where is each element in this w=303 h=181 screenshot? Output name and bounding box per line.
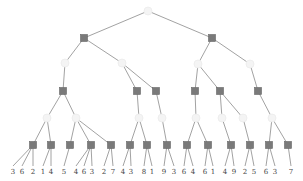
max-node-square-icon bbox=[134, 88, 141, 95]
max-node-square-icon bbox=[247, 142, 254, 149]
chance-node-circle-icon bbox=[218, 114, 226, 122]
chance-node-circle-icon bbox=[158, 114, 166, 122]
leaf-value: 4 bbox=[49, 168, 54, 176]
leaf-value: 6 bbox=[203, 168, 208, 176]
tree-edge bbox=[148, 11, 212, 38]
max-node-square-icon bbox=[255, 88, 262, 95]
max-node-square-icon bbox=[30, 142, 37, 149]
leaf-value: 5 bbox=[62, 168, 66, 176]
leaf-value: 3 bbox=[11, 168, 15, 176]
max-node-square-icon bbox=[144, 142, 151, 149]
tree-edge bbox=[196, 118, 208, 145]
leaf-value: 3 bbox=[172, 168, 176, 176]
max-node-square-icon bbox=[285, 142, 292, 149]
leaf-value: 7 bbox=[289, 168, 293, 176]
max-node-square-icon bbox=[48, 142, 55, 149]
max-node-square-icon bbox=[184, 142, 191, 149]
leaf-value: 9 bbox=[162, 168, 166, 176]
chance-node-circle-icon bbox=[135, 114, 143, 122]
leaf-value: 2 bbox=[102, 168, 106, 176]
chance-node-circle-icon bbox=[118, 59, 126, 67]
leaf-value: 1 bbox=[211, 168, 215, 176]
leaf-value: 7 bbox=[111, 168, 115, 176]
chance-node-circle-icon bbox=[239, 114, 247, 122]
max-node-square-icon bbox=[164, 142, 171, 149]
max-node-square-icon bbox=[228, 142, 235, 149]
max-node-square-icon bbox=[153, 88, 160, 95]
chance-node-circle-icon bbox=[192, 114, 200, 122]
tree-edge bbox=[122, 63, 137, 91]
leaf-value: 6 bbox=[264, 168, 269, 176]
chance-node-circle-icon bbox=[144, 7, 152, 15]
tree-edge bbox=[84, 11, 148, 38]
tree-edge bbox=[212, 38, 250, 64]
tree-edge bbox=[122, 63, 156, 91]
max-node-square-icon bbox=[88, 142, 95, 149]
tree-edge bbox=[272, 118, 288, 145]
leaf-value: 3 bbox=[90, 168, 94, 176]
max-node-square-icon bbox=[209, 35, 216, 42]
max-node-square-icon bbox=[217, 88, 224, 95]
leaf-value: 6 bbox=[182, 168, 187, 176]
max-node-square-icon bbox=[192, 88, 199, 95]
tree-edge bbox=[198, 64, 220, 91]
tree-edge bbox=[198, 38, 212, 64]
chance-node-circle-icon bbox=[268, 114, 276, 122]
game-tree-diagram: 3621454632743819364614925637 bbox=[0, 0, 303, 181]
tree-edge bbox=[84, 38, 122, 63]
tree-edge bbox=[258, 91, 272, 118]
chance-node-circle-icon bbox=[246, 60, 254, 68]
leaf-value: 6 bbox=[82, 168, 87, 176]
chance-node-circle-icon bbox=[61, 59, 69, 67]
leaf-value: 4 bbox=[223, 168, 228, 176]
leaf-value: 8 bbox=[142, 168, 146, 176]
tree-edge bbox=[33, 118, 47, 145]
leaf-value: 4 bbox=[191, 168, 196, 176]
leaf-value: 6 bbox=[20, 168, 25, 176]
chance-node-circle-icon bbox=[72, 114, 80, 122]
max-node-square-icon bbox=[67, 142, 74, 149]
leaf-value: 4 bbox=[74, 168, 79, 176]
chance-node-circle-icon bbox=[194, 60, 202, 68]
leaf-values: 3621454632743819364614925637 bbox=[11, 168, 293, 176]
max-node-square-icon bbox=[108, 142, 115, 149]
leaf-value: 5 bbox=[252, 168, 256, 176]
max-node-square-icon bbox=[266, 142, 273, 149]
leaf-value: 4 bbox=[121, 168, 126, 176]
tree-edge bbox=[76, 118, 111, 145]
leaf-value: 9 bbox=[232, 168, 236, 176]
leaf-value: 1 bbox=[150, 168, 154, 176]
tree-edge bbox=[76, 118, 91, 145]
leaf-value: 3 bbox=[273, 168, 277, 176]
tree-edge bbox=[47, 91, 63, 118]
leaf-value: 2 bbox=[31, 168, 35, 176]
leaf-value: 1 bbox=[41, 168, 45, 176]
max-node-square-icon bbox=[81, 35, 88, 42]
leaf-value: 3 bbox=[129, 168, 133, 176]
max-node-square-icon bbox=[205, 142, 212, 149]
max-node-square-icon bbox=[127, 142, 134, 149]
chance-node-circle-icon bbox=[43, 114, 51, 122]
max-node-square-icon bbox=[60, 88, 67, 95]
tree-nodes bbox=[30, 7, 292, 149]
tree-edge bbox=[63, 91, 76, 118]
leaf-value: 2 bbox=[243, 168, 247, 176]
